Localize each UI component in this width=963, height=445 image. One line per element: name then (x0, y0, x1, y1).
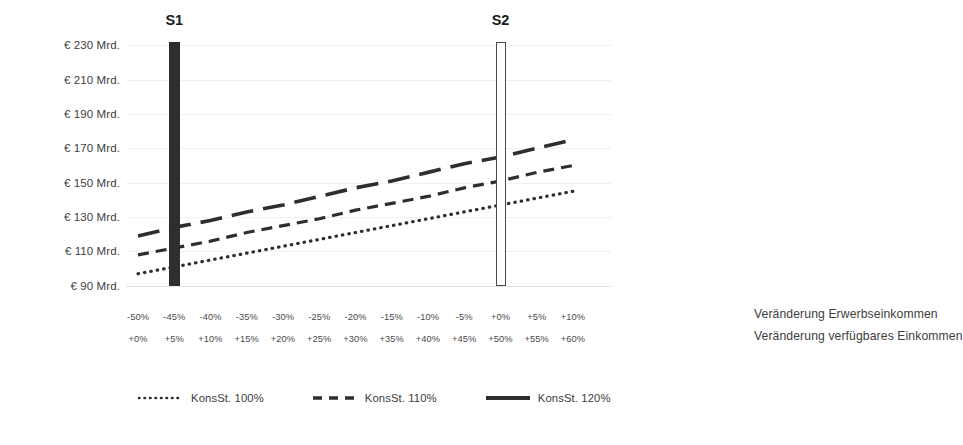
legend-swatch-dashed (312, 392, 358, 404)
x-axis-tick-row1: -10% (417, 312, 439, 322)
y-axis-tick: € 190 Mrd. (30, 108, 120, 120)
x-axis-caption-row1: Veränderung Erwerbseinkommen (754, 307, 938, 321)
y-axis-tick: € 210 Mrd. (30, 74, 120, 86)
x-axis-tick-row1: -35% (236, 312, 258, 322)
x-axis-tick-row1: +10% (561, 312, 585, 322)
x-axis-tick-row1: -20% (344, 312, 366, 322)
x-axis-tick-row2: +0% (128, 334, 147, 344)
y-axis-tick: € 150 Mrd. (30, 177, 120, 189)
x-axis-tick-row2: +20% (271, 334, 295, 344)
x-axis-tick-row2: +55% (525, 334, 549, 344)
x-axis-tick-row1: +0% (491, 312, 510, 322)
x-axis-row-erwerbseinkommen: Veränderung Erwerbseinkommen -50%-45%-40… (126, 307, 611, 329)
x-axis-tick-row2: +15% (235, 334, 259, 344)
y-axis-tick: € 90 Mrd. (30, 280, 120, 292)
scenario-bar-s1 (169, 42, 180, 286)
legend-item: KonsSt. 100% (138, 392, 264, 404)
x-axis-caption-row2: Veränderung verfügbares Einkommen (754, 329, 963, 343)
legend-swatch-solid (485, 392, 531, 404)
legend-swatch-dotted (138, 392, 184, 404)
legend-label: KonsSt. 100% (191, 392, 264, 404)
scenario-label-s2: S2 (492, 12, 510, 28)
x-axis-tick-row1: -25% (308, 312, 330, 322)
x-axis-tick-row2: +50% (488, 334, 512, 344)
scenario-bar-s2 (496, 42, 506, 286)
x-axis-tick-row2: +10% (198, 334, 222, 344)
x-axis-tick-row1: -50% (127, 312, 149, 322)
x-axis-tick-row2: +5% (165, 334, 184, 344)
series-line-konsst-100 (138, 191, 573, 274)
x-axis-tick-row1: -30% (272, 312, 294, 322)
x-axis-tick-row2: +30% (343, 334, 367, 344)
y-axis-tick: € 230 Mrd. (30, 39, 120, 51)
x-axis-tick-row1: -45% (163, 312, 185, 322)
legend-label: KonsSt. 110% (365, 392, 437, 404)
series-line-konsst-110 (138, 166, 573, 255)
series-lines (126, 28, 611, 303)
series-line-konsst-120 (138, 140, 573, 236)
y-axis-labels: € 230 Mrd.€ 210 Mrd.€ 190 Mrd.€ 170 Mrd.… (30, 28, 120, 303)
x-axis-tick-row1: +5% (527, 312, 546, 322)
x-axis-row-verfuegbares-einkommen: Veränderung verfügbares Einkommen +0%+5%… (126, 329, 611, 351)
x-axis-tick-row2: +60% (561, 334, 585, 344)
plot-area (126, 28, 611, 303)
legend-item: KonsSt. 110% (312, 392, 437, 404)
y-axis-tick: € 110 Mrd. (30, 245, 120, 257)
x-axis-tick-row2: +45% (452, 334, 476, 344)
y-axis-tick: € 170 Mrd. (30, 142, 120, 154)
legend-label: KonsSt. 120% (538, 392, 611, 404)
scenario-label-s1: S1 (165, 12, 183, 28)
y-axis-tick: € 130 Mrd. (30, 211, 120, 223)
x-axis-tick-row2: +25% (307, 334, 331, 344)
x-axis-tick-row1: -40% (199, 312, 221, 322)
x-axis-tick-row2: +35% (380, 334, 404, 344)
legend-item: KonsSt. 120% (485, 392, 611, 404)
x-axis-rows: Veränderung Erwerbseinkommen -50%-45%-40… (126, 307, 611, 351)
chart-legend: KonsSt. 100%KonsSt. 110%KonsSt. 120% (138, 392, 659, 404)
x-axis-tick-row2: +40% (416, 334, 440, 344)
x-axis-tick-row1: -15% (381, 312, 403, 322)
x-axis-tick-row1: -5% (456, 312, 473, 322)
